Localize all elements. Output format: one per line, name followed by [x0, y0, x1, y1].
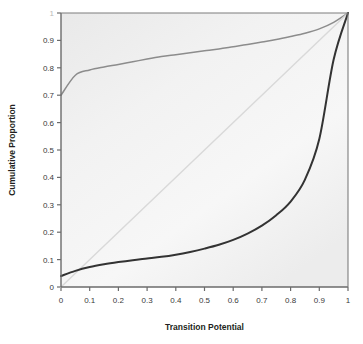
- y-tick-label: 0.8: [43, 64, 55, 73]
- y-tick-label: 0.3: [43, 201, 55, 210]
- x-tick-label: 0.5: [199, 296, 211, 305]
- x-tick-label: 0.6: [228, 296, 240, 305]
- y-tick-label: 0.5: [43, 146, 55, 155]
- y-tick-label: 0.7: [43, 91, 55, 100]
- y-tick-label: 0.1: [43, 256, 55, 265]
- y-tick-label: 0.9: [43, 36, 55, 45]
- x-tick-label: 0.4: [170, 296, 182, 305]
- x-tick-label: 1: [346, 296, 351, 305]
- cumulative-proportion-chart: 00.10.20.30.40.50.60.70.80.91 00.10.20.3…: [0, 0, 363, 344]
- y-tick-label: 0: [50, 283, 55, 292]
- x-tick-label: 0.9: [314, 296, 326, 305]
- x-tick-label: 0.8: [285, 296, 297, 305]
- y-tick-label: 1: [50, 9, 55, 18]
- y-tick-label: 0.6: [43, 119, 55, 128]
- x-axis-title: Transition Potential: [165, 322, 244, 332]
- x-tick-label: 0.2: [113, 296, 125, 305]
- x-tick-label: 0.7: [256, 296, 268, 305]
- y-tick-label: 0.4: [43, 173, 55, 182]
- y-tick-label: 0.2: [43, 228, 55, 237]
- x-tick-label: 0.1: [84, 296, 96, 305]
- y-axis-title: Cumulative Proportion: [7, 104, 17, 196]
- x-tick-label: 0.3: [142, 296, 154, 305]
- x-tick-label: 0: [59, 296, 64, 305]
